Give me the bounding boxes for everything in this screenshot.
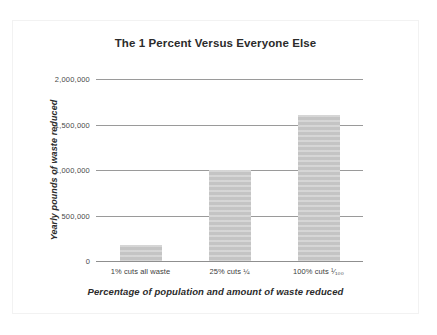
y-axis-tick-label: 1,000,000	[55, 166, 90, 175]
y-axis-tick-label: 500,000	[61, 211, 90, 220]
bar	[209, 170, 251, 261]
bar	[298, 115, 340, 262]
x-axis-title: Percentage of population and amount of w…	[13, 286, 418, 297]
chart-title: The 1 Percent Versus Everyone Else	[13, 37, 418, 49]
chart-card: The 1 Percent Versus Everyone Else Yearl…	[12, 20, 419, 314]
x-axis-tick-label: 100% cuts ¹⁄₁₀₀	[293, 267, 344, 276]
y-axis-tick-label: 1,500,000	[55, 120, 90, 129]
y-axis-tick-label: 0	[86, 257, 90, 266]
gridline	[96, 79, 363, 80]
x-axis-tick-label: 1% cuts all waste	[111, 267, 171, 276]
x-axis-line	[96, 261, 363, 262]
bar	[120, 245, 162, 261]
y-axis-tick-label: 2,000,000	[55, 75, 90, 84]
x-axis-tick-label: 25% cuts ¼	[209, 267, 249, 276]
plot-area: 0500,0001,000,0001,500,0002,000,0001% cu…	[96, 79, 363, 261]
